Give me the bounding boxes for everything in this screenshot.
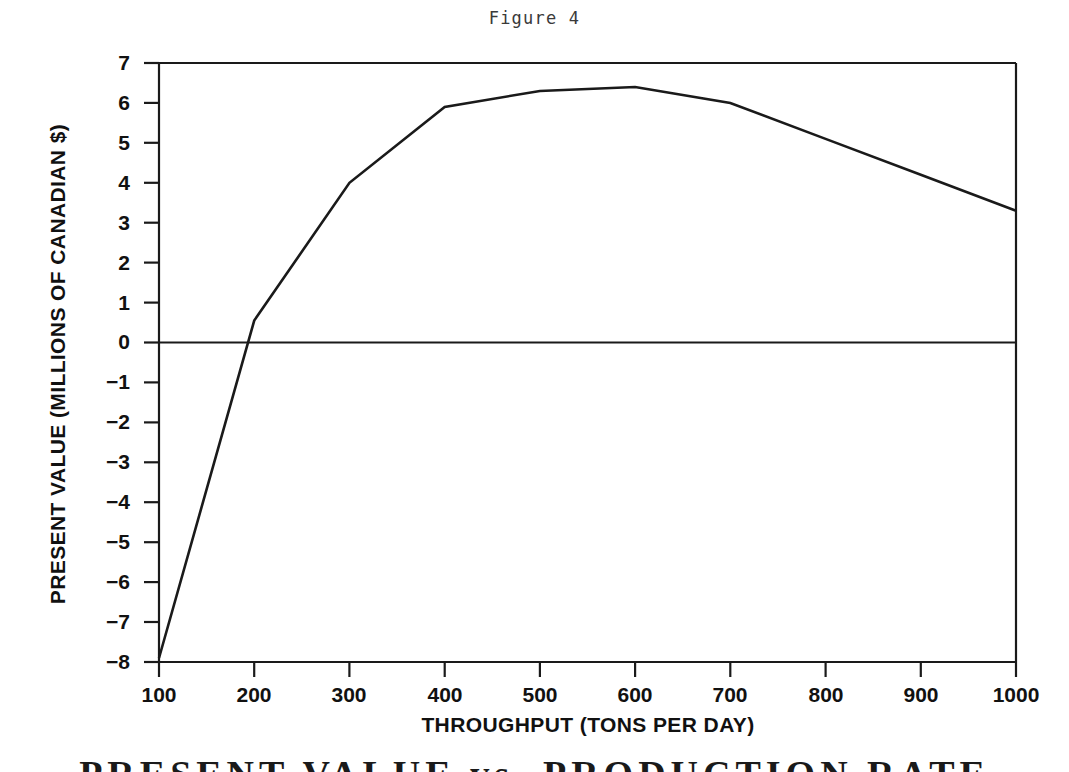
axis-frame [159,63,1016,662]
x-axis-title: THROUGHPUT (TONS PER DAY) [159,713,1017,737]
chart-plot-area: 7 6 5 4 3 2 1 0 −1 −2 −3 −4 −5 −6 −7 −8 … [0,0,1069,772]
chart-svg [0,0,1069,772]
data-series-line [159,87,1016,658]
x-tick-label: 400 [400,684,490,705]
y-tick-label: −6 [78,571,130,592]
y-tick-label: −7 [78,611,130,632]
y-axis-ticks [144,63,159,662]
y-tick-label: 6 [78,92,130,113]
figure-caption: PRESENT VALUE vs. PRODUCTION RATE [0,752,1069,772]
x-tick-label: 600 [590,684,680,705]
y-tick-label: −5 [78,531,130,552]
y-tick-label: 3 [78,212,130,233]
y-tick-label: 7 [78,52,130,73]
y-tick-label: −1 [78,371,130,392]
y-tick-label: −4 [78,491,130,512]
y-tick-label: 1 [78,292,130,313]
y-tick-label: −8 [78,651,130,672]
x-tick-label: 100 [114,684,204,705]
x-tick-label: 700 [685,684,775,705]
y-tick-label: −3 [78,451,130,472]
x-tick-label: 500 [495,684,585,705]
x-tick-label: 900 [876,684,966,705]
y-tick-label: 0 [78,331,130,352]
y-tick-label: 2 [78,252,130,273]
y-axis-title: PRESENT VALUE (MILLIONS OF CANADIAN $) [46,44,70,684]
y-tick-label: 4 [78,172,130,193]
x-axis-ticks [159,662,1016,677]
x-tick-label: 800 [781,684,871,705]
x-tick-label: 1000 [971,684,1061,705]
x-tick-label: 300 [304,684,394,705]
x-tick-label: 200 [209,684,299,705]
y-tick-label: −2 [78,411,130,432]
y-tick-label: 5 [78,132,130,153]
